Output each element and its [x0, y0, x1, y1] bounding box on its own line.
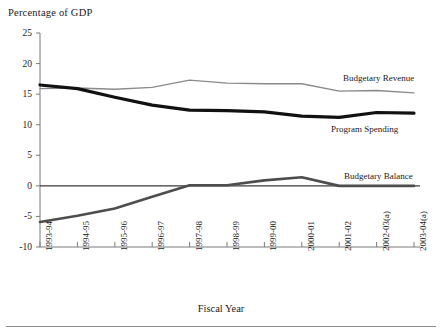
x-tick-label: 1993-94 — [44, 221, 54, 251]
x-tick-label: 1996-97 — [156, 221, 166, 251]
x-tick-label: 2003-04(a) — [418, 211, 428, 251]
chart-plot-area — [0, 0, 442, 335]
y-tick-label: 20 — [6, 59, 32, 69]
x-tick-label: 2000-01 — [306, 221, 316, 251]
series-label: Program Spending — [331, 124, 398, 134]
bottom-divider — [6, 326, 436, 327]
series-label: Budgetary Balance — [344, 171, 413, 181]
x-tick-label: 1995-96 — [119, 221, 129, 251]
y-tick-label: 0 — [6, 181, 32, 191]
y-tick-label: 15 — [6, 89, 32, 99]
x-tick-label: 1997-98 — [194, 221, 204, 251]
x-tick-label: 2002-03(a) — [381, 211, 391, 251]
x-axis-title: Fiscal Year — [0, 303, 442, 314]
y-tick-label: -10 — [6, 242, 32, 252]
y-tick-label: 25 — [6, 28, 32, 38]
series-line-program-spending — [40, 85, 414, 117]
x-tick-label: 2001-02 — [343, 221, 353, 251]
y-tick-label: 5 — [6, 150, 32, 160]
x-tick-label: 1994-95 — [81, 221, 91, 251]
chart-figure: Percentage of GDP 2520151050-5-10 1993-9… — [0, 0, 442, 335]
y-tick-label: -5 — [6, 211, 32, 221]
series-label: Budgetary Revenue — [343, 73, 414, 83]
x-tick-label: 1999-00 — [268, 221, 278, 251]
y-tick-label: 10 — [6, 120, 32, 130]
x-tick-label: 1998-99 — [231, 221, 241, 251]
series-line-budgetary-balance — [40, 177, 414, 222]
